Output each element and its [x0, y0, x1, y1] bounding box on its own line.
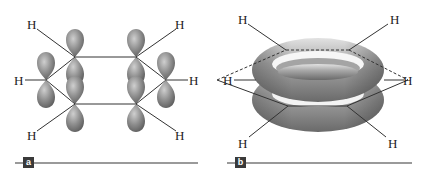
p-orbital-diagram: H H H H H H — [0, 0, 212, 179]
hydrogen-label: H — [27, 17, 36, 32]
hydrogen-label: H — [175, 128, 184, 143]
hydrogen-label: H — [238, 136, 247, 151]
pi-cloud-diagram: H H H H H H — [212, 0, 424, 179]
hydrogen-label: H — [189, 73, 198, 88]
hydrogen-label: H — [388, 136, 397, 151]
hydrogen-label: H — [403, 73, 412, 88]
hydrogen-label: H — [14, 73, 23, 88]
hydrogen-label: H — [238, 12, 247, 27]
panel-b-rule — [227, 162, 412, 164]
upper-pi-torus — [252, 38, 384, 102]
panel-b-pi-cloud: H H H H H H b — [212, 0, 424, 179]
ch-bonds — [25, 29, 188, 131]
ring-bonds — [46, 57, 166, 104]
panel-a-label: a — [23, 157, 34, 168]
panel-a-rule — [15, 162, 198, 164]
panel-a-p-orbitals: H H H H H H a — [0, 0, 212, 179]
hydrogen-label: H — [223, 73, 232, 88]
orbital-lobes-back — [66, 57, 145, 104]
panel-b-label: b — [235, 157, 246, 168]
hydrogen-label: H — [27, 128, 36, 143]
hydrogen-label: H — [175, 17, 184, 32]
hydrogen-label: H — [390, 12, 399, 27]
